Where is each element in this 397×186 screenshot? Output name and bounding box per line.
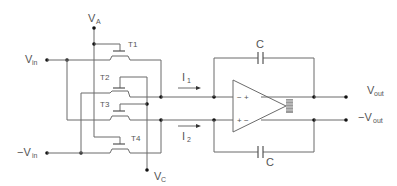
vin-sub: in (32, 59, 38, 66)
va-label: V (88, 12, 96, 24)
vout-sub: out (374, 90, 384, 97)
current-i2: I 2 (178, 124, 201, 143)
vin-input: V in (25, 53, 110, 120)
neg-vin-input: −V in (17, 93, 110, 159)
vc-sub: C (161, 176, 166, 183)
transistor-t1: T1 (94, 40, 161, 97)
opamp-top-signs: − + (237, 93, 249, 102)
vc-supply: V C (145, 77, 166, 183)
op-amp: − + + − (233, 80, 314, 132)
cap-bottom-label: C (266, 156, 274, 168)
t3-label: T3 (100, 100, 110, 109)
i2-label: I (182, 130, 185, 142)
t2-label: T2 (100, 73, 110, 82)
i2-sub: 2 (187, 136, 191, 143)
neg-vout-output: −V out (312, 111, 383, 124)
vout-output: V out (312, 84, 384, 99)
t4-label: T4 (131, 134, 141, 143)
capacitor-top: C (214, 38, 314, 97)
t1-label: T1 (128, 40, 138, 49)
i1-label: I (182, 71, 185, 83)
neg-vout-sub: out (373, 117, 383, 124)
transistor-t4: T4 (94, 120, 161, 153)
i1-sub: 1 (187, 77, 191, 84)
neg-vin-label: −V (17, 146, 31, 158)
input-rails (159, 95, 233, 122)
cap-top-label: C (256, 38, 264, 50)
capacitor-bottom: C (214, 120, 314, 168)
schematic-svg: V A V C V in −V in T1 (0, 0, 397, 186)
va-sub: A (96, 18, 101, 25)
neg-vout-label: −V (358, 111, 372, 123)
neg-vin-sub: in (32, 152, 38, 159)
transistor-t2: T2 (81, 73, 161, 97)
current-i1: I 1 (178, 71, 201, 90)
circuit-diagram: V A V C V in −V in T1 (0, 0, 397, 186)
opamp-bottom-signs: + − (237, 116, 249, 125)
